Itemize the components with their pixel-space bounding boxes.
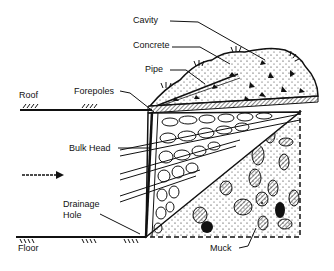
label-concrete: Concrete — [133, 40, 170, 50]
diagram-canvas: Cavity Concrete Pipe Forepoles Roof Bulk… — [0, 0, 334, 271]
drainage-hole-leader — [100, 214, 140, 234]
label-drainage-hole-line2: Hole — [63, 210, 82, 220]
label-bulk-head: Bulk Head — [69, 143, 111, 153]
label-pipe: Pipe — [145, 64, 163, 74]
label-floor: Floor — [18, 243, 39, 253]
roof-line — [20, 104, 152, 110]
label-forepoles: Forepoles — [74, 86, 114, 96]
label-drainage-hole-line1: Drainage — [63, 199, 100, 209]
label-roof: Roof — [19, 90, 38, 100]
concrete-mound — [150, 46, 318, 106]
right-arrow-icon — [22, 171, 64, 179]
label-cavity: Cavity — [133, 15, 158, 25]
label-muck: Muck — [210, 243, 232, 253]
